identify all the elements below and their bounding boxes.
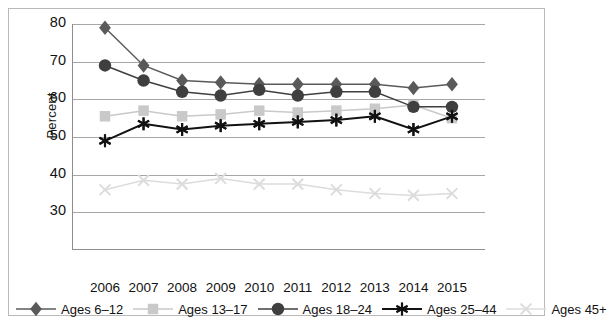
series-line: [105, 116, 452, 140]
y-tick-label: 60: [30, 89, 66, 105]
series-line: [105, 105, 452, 118]
legend-item-4[interactable]: Ages 25–44: [380, 300, 504, 318]
data-point-diamond: [215, 75, 227, 89]
asterisk-marker-icon: [380, 300, 424, 318]
data-point-cross: [100, 184, 111, 195]
data-point-asterisk: [99, 134, 110, 147]
series-line: [105, 178, 452, 195]
data-point-asterisk: [408, 123, 419, 136]
data-point-square: [138, 105, 149, 116]
x-tick-label: 2015: [429, 280, 475, 295]
data-point-circle: [407, 101, 419, 113]
y-tick-label: 30: [30, 202, 66, 218]
plot-area: 2006200720082009201020112012201320142015: [72, 24, 485, 250]
legend-label: Ages 13–17: [178, 302, 247, 317]
series-4: [100, 173, 458, 201]
data-point-circle: [330, 86, 342, 98]
series-2: [99, 59, 458, 113]
y-tick-label: 70: [30, 52, 66, 68]
y-axis-title: Percent: [44, 71, 59, 161]
chart-legend: Ages 6–12Ages 13–17Ages 18–24Ages 25–44A…: [14, 296, 539, 322]
data-point-square: [254, 105, 265, 116]
legend-item-5[interactable]: Ages 45+: [504, 300, 611, 318]
data-point-square: [148, 304, 159, 315]
data-point-diamond: [446, 77, 458, 91]
data-point-circle: [271, 303, 283, 315]
y-tick-label: 80: [30, 14, 66, 30]
data-point-square: [215, 109, 226, 120]
cross-marker-icon: [504, 300, 548, 318]
data-point-diamond: [176, 73, 188, 87]
series-3: [99, 110, 457, 147]
data-point-circle: [99, 59, 111, 71]
legend-label: Ages 25–44: [427, 302, 496, 317]
data-point-circle: [137, 74, 149, 86]
legend-label: Ages 45+: [551, 302, 606, 317]
data-point-diamond: [408, 81, 420, 95]
diamond-marker-icon: [14, 300, 58, 318]
data-point-diamond: [292, 77, 304, 91]
square-marker-icon: [131, 300, 175, 318]
legend-item-1[interactable]: Ages 6–12: [14, 300, 131, 318]
data-point-circle: [214, 89, 226, 101]
legend-label: Ages 6–12: [61, 302, 123, 317]
legend-item-2[interactable]: Ages 13–17: [131, 300, 255, 318]
data-point-circle: [253, 84, 265, 96]
series-0: [99, 21, 458, 96]
data-point-diamond: [30, 302, 42, 316]
y-tick-label: 50: [30, 127, 66, 143]
data-point-square: [177, 111, 188, 122]
data-point-circle: [292, 89, 304, 101]
data-point-square: [100, 111, 111, 122]
legend-item-3[interactable]: Ages 18–24: [256, 300, 380, 318]
data-point-circle: [369, 86, 381, 98]
legend-label: Ages 18–24: [303, 302, 372, 317]
data-point-circle: [176, 86, 188, 98]
circle-marker-icon: [256, 300, 300, 318]
series-line: [105, 28, 452, 88]
y-tick-label: 40: [30, 165, 66, 181]
series-layer: [72, 24, 485, 250]
